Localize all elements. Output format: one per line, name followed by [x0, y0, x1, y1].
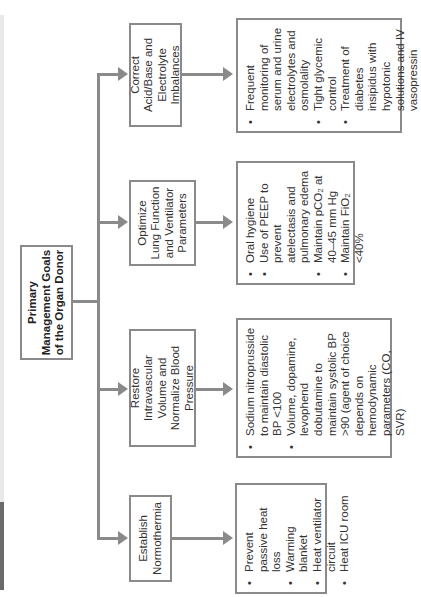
goal-box-normothermia: Establish Normothermia	[129, 495, 172, 582]
list-item: Maintain pCO₂ at 40–45 mm Hg	[312, 169, 339, 263]
arrow-icon	[223, 383, 233, 397]
arrow-icon	[118, 532, 128, 546]
detail-connector-blood-pressure	[196, 388, 224, 391]
detail-box-acid-base: Frequent monitoring of serum and urine e…	[236, 18, 402, 133]
list-item: Tight glycemic control	[312, 26, 339, 111]
goal-label: Establish Normothermia	[137, 501, 164, 576]
root-connector	[73, 300, 98, 303]
goal-label: Restore Intravascular Volume and Normali…	[129, 335, 197, 441]
detail-connector-normothermia	[172, 537, 224, 540]
detail-list: Frequent monitoring of serum and urine e…	[244, 26, 421, 125]
list-item: Heat ICU room	[338, 491, 352, 572]
goal-label: Optimize Lung Function and Ventilator Pa…	[136, 186, 190, 260]
detail-connector-lung	[196, 221, 224, 224]
detail-connector-acid-base	[182, 73, 224, 76]
list-item: Frequent monitoring of serum and urine e…	[244, 26, 312, 111]
arrow-icon	[223, 532, 233, 546]
list-item: Prevent passive heat loss	[243, 491, 284, 572]
list-item: Oral hygiene	[244, 169, 258, 263]
list-item: Volume, dopamine, levophend dobutamine t…	[285, 326, 407, 436]
root-title-line2: Management Goals	[40, 250, 54, 355]
branch-line-blood-pressure	[97, 388, 119, 391]
goal-label: Correct Acid/Base and Electrolyte Imbala…	[129, 29, 183, 121]
detail-list: Sodium nitroprusside to maintain diastol…	[244, 326, 407, 450]
root-title-line3: of the Organ Donor	[53, 250, 67, 355]
detail-box-blood-pressure: Sodium nitroprusside to maintain diastol…	[236, 318, 392, 458]
list-item: Sodium nitroprusside to maintain diastol…	[244, 326, 285, 436]
branch-line-lung	[97, 221, 119, 224]
arrow-icon	[223, 68, 233, 82]
list-item: Maintain FiO₂ <40%	[339, 169, 366, 263]
detail-list: Prevent passive heat loss Warming blanke…	[243, 491, 352, 586]
arrow-icon	[118, 68, 128, 82]
list-item: Treatment of diabetes insipidus with hyp…	[339, 26, 421, 111]
arrow-icon	[223, 216, 233, 230]
list-item: Heat ventilator circuit	[311, 491, 338, 572]
detail-box-lung: Oral hygiene Use of PEEP to prevent atel…	[236, 161, 355, 285]
list-item: Warming blanket	[284, 491, 311, 572]
root-box: Primary Management Goals of the Organ Do…	[20, 245, 73, 360]
root-title-line1: Primary	[26, 250, 40, 355]
list-item: Use of PEEP to prevent atelectasis and p…	[258, 169, 312, 263]
branch-line-normothermia	[97, 537, 119, 540]
arrow-icon	[118, 216, 128, 230]
arrow-icon	[118, 383, 128, 397]
detail-list: Oral hygiene Use of PEEP to prevent atel…	[244, 169, 366, 277]
trunk-line	[97, 73, 100, 540]
detail-box-normothermia: Prevent passive heat loss Warming blanke…	[235, 483, 327, 594]
goal-box-acid-base: Correct Acid/Base and Electrolyte Imbala…	[129, 23, 182, 127]
goal-box-lung: Optimize Lung Function and Ventilator Pa…	[129, 180, 196, 266]
branch-line-acid-base	[97, 73, 119, 76]
goal-box-blood-pressure: Restore Intravascular Volume and Normali…	[129, 329, 196, 447]
